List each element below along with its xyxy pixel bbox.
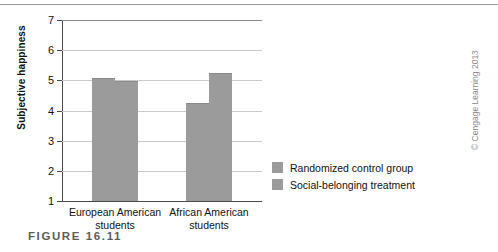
y-tick-label-4: 4 (48, 105, 54, 117)
tick-mark-7 (57, 20, 62, 21)
legend-swatch-treatment (272, 179, 283, 190)
gridline-1: 1 (62, 201, 262, 202)
figure-caption: FIGURE 16.11 (28, 230, 122, 242)
tick-mark-4 (57, 111, 62, 112)
bar-african-american-control (186, 103, 209, 201)
legend-label-treatment: Social-belonging treatment (290, 179, 415, 191)
y-tick-label-6: 6 (48, 44, 54, 56)
legend-item-treatment: Social-belonging treatment (272, 177, 452, 192)
figure-container: Subjective happiness 7 6 5 4 (0, 0, 498, 252)
tick-mark-1 (57, 201, 62, 202)
gridline-6: 6 (62, 50, 262, 51)
bar-european-american-control (92, 78, 115, 201)
bar-european-american-treatment (115, 81, 138, 201)
tick-mark-5 (57, 80, 62, 81)
tick-mark-6 (57, 50, 62, 51)
legend-swatch-control (272, 162, 283, 173)
y-tick-label-2: 2 (48, 165, 54, 177)
tick-mark-2 (57, 171, 62, 172)
copyright-credit: © Cengage Learning 2013 (470, 50, 480, 150)
legend-label-control: Randomized control group (290, 162, 413, 174)
tick-mark-3 (57, 141, 62, 142)
top-divider-rule (0, 4, 498, 5)
gridline-7: 7 (62, 20, 262, 21)
x-group-label-african-american: African American students (144, 206, 274, 232)
y-tick-label-3: 3 (48, 135, 54, 147)
y-axis-title: Subjective happiness (16, 13, 27, 143)
x-group-label-line1: African American (144, 206, 274, 219)
y-tick-label-5: 5 (48, 74, 54, 86)
legend-item-control: Randomized control group (272, 160, 452, 175)
bar-african-american-treatment (209, 73, 232, 201)
chart-legend: Randomized control group Social-belongin… (272, 160, 452, 194)
plot-area: 7 6 5 4 3 2 1 (62, 20, 262, 202)
x-group-label-line2: students (144, 219, 274, 232)
y-tick-label-7: 7 (48, 14, 54, 26)
